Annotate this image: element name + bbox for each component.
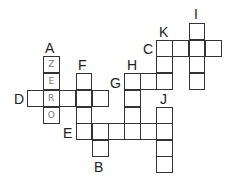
crossword-cell[interactable]: [124, 73, 141, 90]
crossword-cell[interactable]: [156, 156, 173, 173]
crossword-cell[interactable]: [124, 107, 141, 124]
crossword-cell[interactable]: [92, 123, 109, 140]
clue-label-e: E: [63, 126, 72, 140]
crossword-cell[interactable]: [108, 123, 125, 140]
clue-label-j: J: [160, 92, 167, 106]
crossword-cell[interactable]: [76, 90, 93, 107]
crossword-cell[interactable]: [59, 90, 76, 107]
crossword-cell[interactable]: [92, 90, 109, 107]
crossword-cell[interactable]: [92, 140, 109, 157]
clue-label-i: I: [194, 7, 198, 21]
crossword-cell[interactable]: [140, 123, 157, 140]
crossword-cell[interactable]: [156, 73, 173, 90]
crossword-cell[interactable]: [76, 73, 93, 90]
crossword-cell[interactable]: [189, 73, 206, 90]
crossword-cell[interactable]: O: [43, 107, 60, 124]
clue-label-d: D: [14, 92, 24, 106]
crossword-cell[interactable]: [76, 123, 93, 140]
clue-label-b: B: [94, 160, 103, 174]
crossword-cell[interactable]: Z: [43, 56, 60, 73]
crossword-cell[interactable]: [27, 90, 44, 107]
crossword-cell[interactable]: [140, 73, 157, 90]
crossword-cell[interactable]: [189, 40, 206, 57]
clue-label-c: C: [143, 42, 153, 56]
crossword-cell[interactable]: [205, 40, 222, 57]
clue-label-g: G: [110, 76, 121, 90]
crossword-cell[interactable]: [189, 23, 206, 40]
crossword-cell[interactable]: [124, 90, 141, 107]
crossword-cell[interactable]: [156, 123, 173, 140]
crossword-cell[interactable]: R: [43, 90, 60, 107]
crossword-cell[interactable]: E: [43, 73, 60, 90]
crossword-cell[interactable]: [124, 123, 141, 140]
crossword-cell[interactable]: [156, 40, 173, 57]
crossword-cell[interactable]: [189, 56, 206, 73]
clue-label-k: K: [159, 25, 168, 39]
clue-label-f: F: [78, 58, 87, 72]
crossword-cell[interactable]: [156, 107, 173, 124]
crossword-cell[interactable]: [156, 56, 173, 73]
crossword-grid: AZEROBCDEFGHIJK: [0, 0, 236, 183]
crossword-cell[interactable]: [172, 40, 189, 57]
clue-label-h: H: [127, 58, 137, 72]
clue-label-a: A: [45, 41, 54, 55]
crossword-cell[interactable]: [76, 107, 93, 124]
crossword-cell[interactable]: [156, 140, 173, 157]
